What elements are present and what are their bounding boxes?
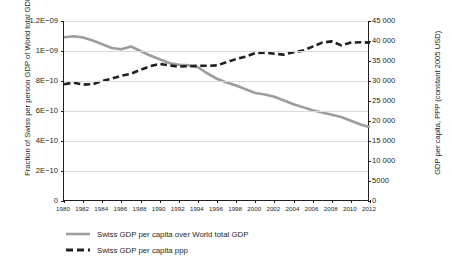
left-tick-mark	[61, 141, 64, 142]
right-tick-mark	[368, 41, 371, 42]
x-tick-mark	[83, 200, 84, 203]
x-tick-mark	[64, 200, 65, 203]
x-tick-mark	[236, 200, 237, 203]
x-tick-label: 2012	[356, 205, 382, 212]
left-tick-label: 2E−10	[36, 166, 58, 175]
x-tick-mark	[255, 200, 256, 203]
legend-swatch-solid-gray-line	[66, 229, 90, 239]
right-tick-label: 0	[372, 196, 376, 205]
chart-legend: Swiss GDP per capita over World total GD…	[66, 226, 248, 258]
left-tick-label: 6E−10	[36, 106, 58, 115]
right-tick-label: 45 000	[372, 16, 395, 25]
x-tick-mark	[160, 200, 161, 203]
x-tick-mark	[102, 200, 103, 203]
right-tick-mark	[368, 181, 371, 182]
right-tick-mark	[368, 141, 371, 142]
plot-area	[63, 21, 369, 201]
legend-item-swiss-ppp: Swiss GDP per capita ppp	[66, 242, 248, 258]
left-tick-label: 8E−10	[36, 76, 58, 85]
legend-item-swiss-over-world: Swiss GDP per capita over World total GD…	[66, 226, 248, 242]
right-tick-label: 30 000	[372, 76, 395, 85]
right-tick-label: 35 000	[372, 56, 395, 65]
right-tick-mark	[368, 121, 371, 122]
right-tick-label: 15 000	[372, 136, 395, 145]
right-tick-label: 20 000	[372, 116, 395, 125]
right-tick-mark	[368, 21, 371, 22]
left-tick-mark	[61, 171, 64, 172]
left-tick-mark	[61, 81, 64, 82]
left-axis-title: Fraction of Swiss per person GDP of Worl…	[23, 26, 33, 176]
left-tick-label: 0	[54, 196, 58, 205]
right-tick-mark	[368, 81, 371, 82]
gridline	[64, 141, 368, 142]
x-tick-mark	[351, 200, 352, 203]
right-tick-label: 40 000	[372, 36, 395, 45]
chart-figure: Fraction of Swiss per person GDP of Worl…	[0, 0, 452, 267]
x-tick-mark	[217, 200, 218, 203]
x-tick-mark	[313, 200, 314, 203]
right-axis-title: GDP per capita, PPP (constant 2005 USD)	[433, 28, 443, 178]
right-tick-label: 25 000	[372, 96, 395, 105]
x-tick-mark	[141, 200, 142, 203]
x-tick-mark	[274, 200, 275, 203]
left-tick-mark	[61, 111, 64, 112]
gridline	[64, 21, 368, 22]
left-tick-mark	[61, 21, 64, 22]
gridline	[64, 111, 368, 112]
left-tick-label: 1E−09	[36, 46, 58, 55]
right-tick-mark	[368, 61, 371, 62]
legend-swatch-dashed-black-line	[66, 245, 90, 255]
right-tick-mark	[368, 161, 371, 162]
gridline	[64, 81, 368, 82]
right-tick-label: 10 000	[372, 156, 395, 165]
x-tick-mark	[332, 200, 333, 203]
legend-label-swiss-over-world: Swiss GDP per capita over World total GD…	[97, 230, 248, 239]
right-tick-label: 5000	[372, 176, 389, 185]
x-tick-mark	[121, 200, 122, 203]
x-tick-mark	[198, 200, 199, 203]
legend-label-swiss-ppp: Swiss GDP per capita ppp	[97, 246, 188, 255]
x-tick-mark	[370, 200, 371, 203]
gridline	[64, 171, 368, 172]
x-tick-mark	[179, 200, 180, 203]
left-tick-label: 4E−10	[36, 136, 58, 145]
gridline	[64, 51, 368, 52]
x-tick-mark	[294, 200, 295, 203]
left-tick-mark	[61, 51, 64, 52]
right-tick-mark	[368, 101, 371, 102]
left-tick-label: 1.2E−09	[29, 16, 58, 25]
